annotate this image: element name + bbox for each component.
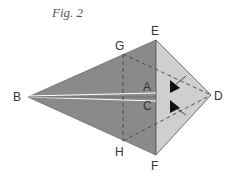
label-f: F [151,159,158,173]
label-e: E [151,24,159,38]
light-panel [156,40,211,155]
label-h: H [115,145,124,159]
label-c: C [143,99,152,113]
label-d: D [214,89,223,103]
label-g: G [115,39,124,53]
label-b: B [13,90,21,104]
kite-fold-diagram: B E F D G H A C [0,0,234,177]
label-a: A [143,80,151,94]
